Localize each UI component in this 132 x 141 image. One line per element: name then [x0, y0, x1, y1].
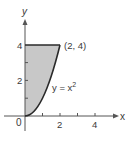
y-tick-label-4: 4 [17, 40, 22, 51]
shaded-region [25, 45, 60, 116]
curve-label-base: y = x [52, 82, 73, 93]
curve-label-exponent: 2 [72, 81, 76, 88]
x-axis-arrow-icon [113, 114, 119, 119]
point-label: (2, 4) [64, 40, 86, 51]
x-tick-label-4: 4 [92, 119, 97, 130]
x-tick-label-2: 2 [57, 119, 62, 130]
y-tick-label-2: 2 [17, 75, 22, 86]
curve-label: y = x2 [52, 81, 76, 93]
origin-label: 0 [16, 117, 22, 128]
y-axis-label: y [21, 6, 28, 17]
x-axis-label: x [120, 111, 125, 122]
y-axis-arrow-icon [23, 19, 28, 25]
region-diagram: y x 0 2 4 2 4 (2, 4) y = x2 [0, 0, 132, 141]
